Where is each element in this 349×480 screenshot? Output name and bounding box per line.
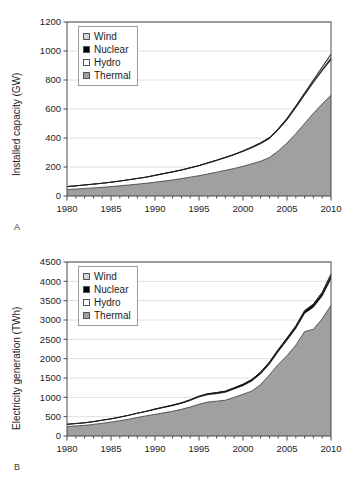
svg-text:1990: 1990 bbox=[144, 203, 165, 214]
legend-label-wind: Wind bbox=[94, 270, 117, 283]
legend-label-nuclear: Nuclear bbox=[94, 283, 128, 296]
legend-swatch-wind bbox=[83, 33, 90, 40]
svg-text:0: 0 bbox=[56, 190, 61, 201]
figure-container: 0200400600800100012001980198519901995200… bbox=[0, 0, 349, 480]
svg-text:1000: 1000 bbox=[40, 45, 61, 56]
svg-text:2000: 2000 bbox=[232, 203, 253, 214]
svg-text:1990: 1990 bbox=[144, 443, 165, 454]
legend-item-nuclear: Nuclear bbox=[83, 283, 131, 296]
svg-text:2005: 2005 bbox=[276, 203, 297, 214]
legend-item-wind: Wind bbox=[83, 30, 131, 43]
legend-item-nuclear: Nuclear bbox=[83, 43, 131, 56]
y-axis-title-a: Installed capacity (GW) bbox=[11, 73, 22, 176]
legend-item-hydro: Hydro bbox=[83, 56, 131, 69]
chart-svg-a: 0200400600800100012001980198519901995200… bbox=[0, 0, 349, 215]
svg-text:1985: 1985 bbox=[100, 203, 121, 214]
svg-text:3000: 3000 bbox=[40, 314, 61, 325]
chart-legend-a: Wind Nuclear Hydro Thermal bbox=[78, 26, 138, 86]
legend-label-wind: Wind bbox=[94, 30, 117, 43]
svg-text:1200: 1200 bbox=[40, 16, 61, 27]
svg-text:0: 0 bbox=[56, 430, 61, 441]
chart-panel-b: 0500100015002000250030003500400045001980… bbox=[0, 240, 349, 480]
legend-label-nuclear: Nuclear bbox=[94, 43, 128, 56]
svg-text:2010: 2010 bbox=[320, 443, 341, 454]
y-axis-title-b: Electricity generation (TWh) bbox=[11, 307, 22, 430]
legend-item-thermal: Thermal bbox=[83, 309, 131, 322]
svg-text:2010: 2010 bbox=[320, 203, 341, 214]
panel-label-a: A bbox=[14, 222, 20, 232]
svg-text:600: 600 bbox=[45, 103, 61, 114]
svg-text:3500: 3500 bbox=[40, 295, 61, 306]
svg-text:800: 800 bbox=[45, 74, 61, 85]
chart-legend-b: Wind Nuclear Hydro Thermal bbox=[78, 266, 138, 326]
svg-text:4000: 4000 bbox=[40, 276, 61, 287]
svg-text:2005: 2005 bbox=[276, 443, 297, 454]
svg-text:2000: 2000 bbox=[40, 353, 61, 364]
legend-label-hydro: Hydro bbox=[94, 296, 121, 309]
svg-text:2000: 2000 bbox=[232, 443, 253, 454]
panel-label-b: B bbox=[14, 462, 20, 472]
svg-text:1000: 1000 bbox=[40, 392, 61, 403]
legend-swatch-wind bbox=[83, 273, 90, 280]
svg-text:2500: 2500 bbox=[40, 334, 61, 345]
svg-text:1980: 1980 bbox=[56, 203, 77, 214]
chart-svg-b: 0500100015002000250030003500400045001980… bbox=[0, 240, 349, 455]
legend-item-wind: Wind bbox=[83, 270, 131, 283]
svg-text:1985: 1985 bbox=[100, 443, 121, 454]
svg-text:500: 500 bbox=[45, 411, 61, 422]
legend-label-thermal: Thermal bbox=[94, 69, 131, 82]
svg-text:1995: 1995 bbox=[188, 443, 209, 454]
legend-item-thermal: Thermal bbox=[83, 69, 131, 82]
legend-swatch-hydro bbox=[83, 299, 90, 306]
svg-text:1995: 1995 bbox=[188, 203, 209, 214]
svg-text:200: 200 bbox=[45, 161, 61, 172]
chart-plot-b: 0500100015002000250030003500400045001980… bbox=[0, 240, 349, 455]
legend-swatch-thermal bbox=[83, 72, 90, 79]
legend-swatch-nuclear bbox=[83, 46, 90, 53]
svg-text:400: 400 bbox=[45, 132, 61, 143]
legend-label-hydro: Hydro bbox=[94, 56, 121, 69]
legend-swatch-thermal bbox=[83, 312, 90, 319]
svg-text:1980: 1980 bbox=[56, 443, 77, 454]
svg-text:1500: 1500 bbox=[40, 372, 61, 383]
legend-item-hydro: Hydro bbox=[83, 296, 131, 309]
chart-plot-a: 0200400600800100012001980198519901995200… bbox=[0, 0, 349, 215]
legend-label-thermal: Thermal bbox=[94, 309, 131, 322]
svg-text:4500: 4500 bbox=[40, 256, 61, 267]
chart-panel-a: 0200400600800100012001980198519901995200… bbox=[0, 0, 349, 240]
legend-swatch-nuclear bbox=[83, 286, 90, 293]
legend-swatch-hydro bbox=[83, 59, 90, 66]
